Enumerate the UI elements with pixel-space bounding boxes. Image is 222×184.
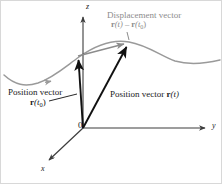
- displacement-label-formula: r(t) – r(t0): [107, 20, 181, 31]
- position-t-label-text: Position vector: [110, 89, 167, 99]
- position-vector-r-t-arrow: [83, 47, 127, 128]
- vector-diagram-figure: z y x 0 Displacement vector r(t) – r(t0)…: [0, 0, 222, 184]
- position-t0-label-line1: Position vector: [8, 87, 62, 97]
- position-t0-close: ): [43, 97, 46, 107]
- x-axis: [49, 128, 83, 160]
- position-vector-t0-label: Position vector r(t0): [8, 87, 62, 108]
- curve-direction-marker-icon: [45, 81, 51, 82]
- z-axis-label: z: [86, 3, 89, 12]
- origin-label: 0: [78, 120, 83, 130]
- position-t-arg: (t): [171, 89, 180, 99]
- x-axis-label: x: [41, 165, 45, 174]
- position-t0-label-formula: r(t0): [8, 97, 62, 108]
- y-axis-label: y: [212, 122, 216, 131]
- displacement-r1-arg: (t): [115, 19, 123, 29]
- position-vector-r-t0-arrow: [79, 60, 84, 128]
- displacement-vector-label: Displacement vector r(t) – r(t0): [107, 10, 181, 31]
- displacement-r2-close: ): [143, 19, 146, 29]
- position-vector-t-label: Position vector r(t): [110, 89, 179, 99]
- displacement-label-leader-line: [127, 32, 129, 40]
